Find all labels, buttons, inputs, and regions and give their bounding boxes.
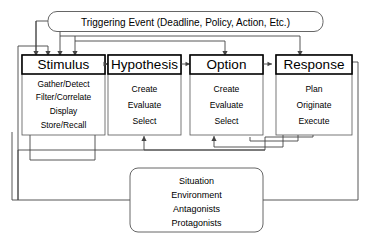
stage-option-item-0: Create (214, 84, 240, 94)
stage-hypothesis-header: Hypothesis (111, 57, 178, 72)
stage-stimulus-item-3: Store/Recall (41, 120, 87, 130)
stage-hypothesis-item-2: Select (133, 116, 157, 126)
stage-option-item-2: Select (215, 116, 239, 126)
context-item-3: Protagonists (171, 218, 222, 228)
stage-hypothesis-item-0: Create (132, 84, 158, 94)
stage-option-header: Option (207, 57, 247, 72)
context-item-0: Situation (179, 176, 214, 186)
stage-stimulus-item-1: Filter/Correlate (36, 92, 92, 102)
stage-response: Response Plan Originate Execute (276, 55, 352, 135)
stage-option: Option Create Evaluate Select (190, 55, 263, 135)
stage-response-header: Response (284, 57, 345, 72)
stage-response-item-2: Execute (298, 116, 329, 126)
triggering-event-label: Triggering Event (Deadline, Policy, Acti… (81, 17, 290, 28)
stage-hypothesis: Hypothesis Create Evaluate Select (108, 55, 181, 135)
stage-response-item-1: Originate (297, 100, 332, 110)
process-flow-diagram: Triggering Event (Deadline, Policy, Acti… (0, 0, 369, 247)
stage-stimulus-item-0: Gather/Detect (37, 79, 90, 89)
stage-stimulus-item-2: Display (50, 106, 78, 116)
context-item-2: Antagonists (173, 204, 221, 214)
context-box: Situation Environment Antagonists Protag… (130, 168, 263, 232)
context-item-1: Environment (171, 190, 222, 200)
connector-option-response (263, 62, 272, 66)
stage-stimulus: Stimulus Gather/Detect Filter/Correlate … (22, 55, 105, 135)
stage-stimulus-header: Stimulus (38, 57, 90, 72)
connector-hypothesis-option (181, 62, 190, 66)
triggering-event-box: Triggering Event (Deadline, Policy, Acti… (48, 12, 323, 32)
stage-response-item-0: Plan (305, 84, 322, 94)
stage-hypothesis-item-1: Evaluate (128, 100, 162, 110)
stage-option-item-1: Evaluate (210, 100, 244, 110)
